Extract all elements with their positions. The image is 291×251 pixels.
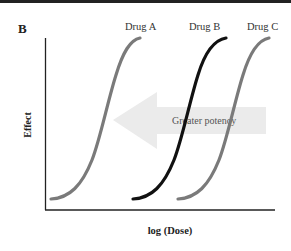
panel-label: B (18, 21, 27, 36)
top-border (0, 0, 291, 3)
potency-arrow-label: Greater potency (172, 115, 236, 126)
drug-c-label: Drug C (247, 21, 278, 32)
y-axis-label: Effect (22, 112, 33, 138)
dose-response-figure: B Greater potency Drug A Drug B Drug C E… (0, 0, 291, 251)
drug-b-label: Drug B (189, 21, 220, 32)
drug-a-label: Drug A (125, 21, 157, 32)
x-axis-label: log (Dose) (148, 225, 193, 237)
